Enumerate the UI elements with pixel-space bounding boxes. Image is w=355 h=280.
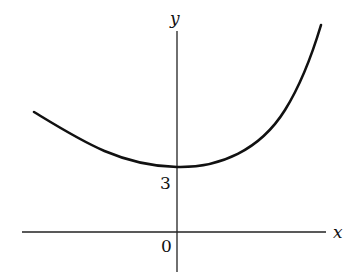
y-axis-label: y bbox=[169, 8, 180, 28]
graph: y x 3 0 bbox=[0, 0, 355, 280]
x-axis-label: x bbox=[333, 222, 343, 242]
y-tick-label-3: 3 bbox=[160, 173, 171, 193]
origin-label: 0 bbox=[161, 236, 172, 256]
